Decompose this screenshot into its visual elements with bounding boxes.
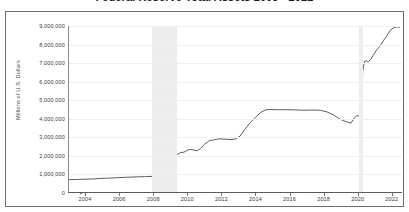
- y-tick-label: 8,000,000: [39, 42, 65, 48]
- x-tick-label: 2012: [206, 196, 236, 202]
- x-tick-label: 2010: [172, 196, 202, 202]
- x-tick-label: 2022: [377, 196, 407, 202]
- x-tick-mark: [187, 193, 188, 196]
- x-axis-line: [68, 192, 402, 193]
- gridline: [68, 26, 402, 27]
- y-tick-label: 7,000,000: [39, 60, 65, 66]
- x-tick-label: 2016: [275, 196, 305, 202]
- x-tick-label: 2006: [104, 196, 134, 202]
- x-tick-mark: [153, 193, 154, 196]
- gridline: [68, 119, 402, 120]
- gridline: [68, 100, 402, 101]
- series-line-fed-total-assets: [68, 26, 402, 193]
- gridline: [68, 63, 402, 64]
- x-tick-mark: [119, 193, 120, 196]
- x-tick-mark: [255, 193, 256, 196]
- y-tick-label: 1,000,000: [39, 171, 65, 177]
- x-tick-label: 2018: [309, 196, 339, 202]
- chart-screenshot: Federal Reserve Total Assets 2003 - 2022…: [0, 0, 409, 212]
- y-tick-label: 6,000,000: [39, 79, 65, 85]
- gridline: [68, 137, 402, 138]
- x-tick-mark: [290, 193, 291, 196]
- x-tick-label: 2020: [343, 196, 373, 202]
- recession-band-2020: [359, 26, 363, 193]
- x-tick-label: 2014: [240, 196, 270, 202]
- y-tick-label: 4,000,000: [39, 116, 65, 122]
- x-tick-mark: [221, 193, 222, 196]
- x-tick-mark: [324, 193, 325, 196]
- y-tick-label: 5,000,000: [39, 97, 65, 103]
- x-tick-mark: [85, 193, 86, 196]
- gridline: [68, 45, 402, 46]
- y-tick-label: 3,000,000: [39, 134, 65, 140]
- y-tick-label: 9,000,000: [39, 23, 65, 29]
- y-axis-tick-labels: 9,000,0008,000,0007,000,0006,000,0005,00…: [20, 26, 65, 193]
- plot-area: [68, 26, 402, 193]
- gridline: [68, 82, 402, 83]
- x-tick-mark: [392, 193, 393, 196]
- x-tick-label: 2008: [138, 196, 168, 202]
- chart-title: Federal Reserve Total Assets 2003 - 2022: [0, 0, 409, 3]
- gridline: [68, 156, 402, 157]
- chart-frame: Millions of U.S. Dollars 9,000,0008,000,…: [5, 11, 404, 207]
- gridline: [68, 174, 402, 175]
- y-axis-line: [68, 26, 69, 193]
- x-tick-mark: [358, 193, 359, 196]
- y-tick-mark: [80, 193, 82, 194]
- y-tick-label: 2,000,000: [39, 153, 65, 159]
- x-axis-tick-labels: 2004200620082010201220142016201820202022: [68, 196, 402, 208]
- x-tick-label: 2004: [70, 196, 100, 202]
- recession-band-2008: [152, 26, 178, 193]
- y-tick-label: 0: [62, 190, 65, 196]
